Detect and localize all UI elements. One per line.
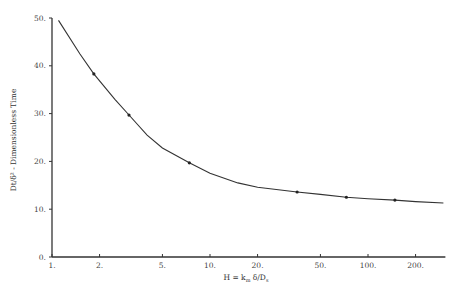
y-tick-label: 40. <box>34 61 46 70</box>
y-tick-label: 20. <box>34 157 46 166</box>
data-point <box>127 113 130 116</box>
y-tick-label: 30. <box>34 109 46 118</box>
y-tick-label: 0. <box>39 253 46 262</box>
y-axis: 0.10.20.30.40.50. <box>34 14 52 262</box>
data-points <box>92 72 396 201</box>
data-point <box>188 161 191 164</box>
x-tick-label: 1. <box>48 261 55 270</box>
y-tick-label: 10. <box>34 205 46 214</box>
x-tick-label: 2. <box>96 261 103 270</box>
x-tick-label: 50. <box>314 261 326 270</box>
y-tick-label: 50. <box>34 14 46 23</box>
data-point <box>345 196 348 199</box>
x-tick-label: 100. <box>360 261 377 270</box>
chart: 0.10.20.30.40.50. 1.2.5.10.20.50.100.200… <box>0 0 461 296</box>
x-tick-label: 200. <box>407 261 424 270</box>
x-tick-label: 20. <box>252 261 264 270</box>
x-tick-label: 10. <box>204 261 216 270</box>
data-point <box>296 190 299 193</box>
y-axis-label: Dt/δ² - Dimensionless Time <box>9 88 18 191</box>
x-axis-label: H = km δ/Ds <box>224 273 269 283</box>
data-point <box>92 72 95 75</box>
x-axis: 1.2.5.10.20.50.100.200. <box>48 254 445 270</box>
x-tick-label: 5. <box>159 261 166 270</box>
fitted-curve <box>59 20 444 203</box>
data-point <box>393 199 396 202</box>
